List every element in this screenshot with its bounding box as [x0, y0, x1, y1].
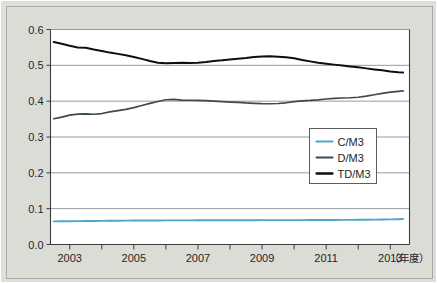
x-axis-tick-label: 2009 — [250, 252, 274, 264]
x-axis-tick-label: 2011 — [314, 252, 338, 264]
chart-figure: 0.00.10.20.30.40.50.62003200520072009201… — [0, 0, 437, 283]
x-axis-tick-label: 2007 — [186, 252, 210, 264]
legend-label-td-m3: TD/M3 — [338, 168, 371, 180]
y-axis-tick-label: 0.5 — [28, 59, 43, 71]
x-axis-tick-label: 2003 — [57, 252, 81, 264]
chart-plot-wrapper: 0.00.10.20.30.40.50.62003200520072009201… — [1, 1, 437, 283]
y-axis-tick-label: 0.2 — [28, 167, 43, 179]
x-axis-tick-label: 2005 — [122, 252, 146, 264]
legend-label-c-m3: C/M3 — [338, 136, 364, 148]
y-axis-tick-label: 0.6 — [28, 24, 43, 36]
y-axis-tick-label: 0.3 — [28, 131, 43, 143]
line-chart: 0.00.10.20.30.40.50.62003200520072009201… — [1, 1, 437, 283]
y-axis-tick-label: 0.0 — [28, 239, 43, 251]
legend-label-d-m3: D/M3 — [338, 152, 364, 164]
x-axis-unit-label: （年度） — [389, 252, 429, 264]
y-axis-tick-label: 0.4 — [28, 95, 43, 107]
y-axis-tick-label: 0.1 — [28, 203, 43, 215]
